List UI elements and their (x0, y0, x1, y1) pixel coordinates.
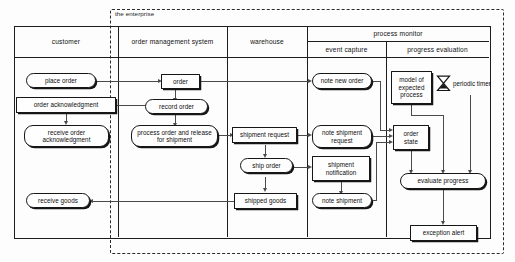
lane-title-event-capture: event capture (307, 41, 386, 57)
node-order-state[interactable]: order state (393, 125, 429, 150)
node-shipped-goods[interactable]: shipped goods (234, 193, 297, 209)
node-note-shipment[interactable]: note shipment (312, 193, 372, 208)
node-note-new-order[interactable]: note new order (312, 73, 372, 89)
flow-order-to-note-new-order (200, 81, 310, 82)
flow-shipped-goods-to-receive-goods (92, 201, 234, 202)
bpmn-diagram-canvas: the enterprise customer order management… (0, 0, 515, 262)
enterprise-boundary-label: the enterprise (113, 10, 156, 17)
flow-note-new-order-down (380, 81, 381, 130)
node-exception-alert[interactable]: exception alert (410, 225, 477, 241)
flow-order-state-to-evaluate (411, 150, 412, 172)
flow-model-elbow (411, 115, 444, 116)
node-process-order-and-release-for-shipment[interactable]: process order and release for shipment (131, 125, 218, 147)
node-ship-order[interactable]: ship order (240, 158, 293, 173)
flow-timer-to-evaluate (470, 95, 471, 172)
node-note-shipment-request[interactable]: note shipment request (312, 125, 372, 148)
periodic-timer-label: periodic timer (453, 80, 491, 87)
node-order[interactable]: order (161, 74, 200, 89)
flow-note-shipment-out (372, 200, 377, 201)
flow-arrow-to-shipped-goods (263, 188, 267, 192)
lane-divider-eventcapture-progress (386, 41, 387, 237)
node-place-order[interactable]: place order (26, 73, 96, 88)
node-order-acknowledgment[interactable]: order acknowledgment (16, 97, 116, 113)
flow-model-to-evaluate (443, 115, 444, 172)
flow-place-order-to-order (96, 81, 160, 82)
node-record-order[interactable]: record order (145, 99, 208, 114)
lane-title-warehouse: warehouse (227, 26, 307, 57)
node-shipment-notification[interactable]: shipment notification (312, 156, 370, 181)
node-model-of-expected-process[interactable]: model of expected process (391, 71, 432, 104)
lane-title-order-management-system: order management system (118, 26, 227, 57)
node-receive-order-acknowledgment[interactable]: receive order acknowledgment (24, 125, 109, 147)
lane-title-customer: customer (14, 26, 118, 57)
node-evaluate-progress[interactable]: evaluate progress (400, 173, 486, 189)
header-rule-bottom (14, 57, 489, 58)
lane-title-process-monitor: process monitor (307, 26, 489, 41)
flow-note-shipment-up (376, 142, 377, 200)
hourglass-icon (436, 75, 451, 96)
lane-title-progress-evaluation: progress evaluation (386, 41, 489, 57)
node-receive-goods[interactable]: receive goods (26, 193, 90, 208)
flow-evaluate-to-exception-alert (443, 189, 444, 223)
node-shipment-request[interactable]: shipment request (232, 127, 297, 143)
